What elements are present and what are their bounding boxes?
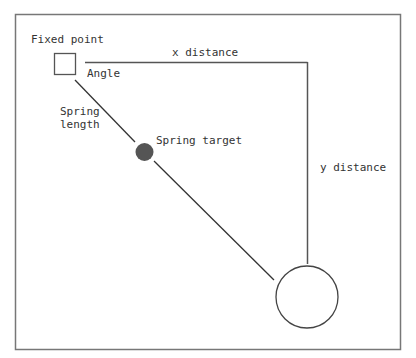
y-distance-label: y distance xyxy=(320,161,386,174)
spring-diagram: Fixed point x distance Angle Spring leng… xyxy=(0,0,416,358)
fixed-point-square xyxy=(55,54,76,75)
spring-to-bob-line xyxy=(154,161,274,280)
angle-label: Angle xyxy=(87,67,120,80)
spring-target-label: Spring target xyxy=(156,134,242,147)
x-distance-label: x distance xyxy=(172,46,238,59)
fixed-point-label: Fixed point xyxy=(31,33,104,46)
bob-circle xyxy=(276,266,338,328)
spring-length-label-2: length xyxy=(60,118,100,131)
spring-target-dot xyxy=(136,143,154,161)
spring-length-label-1: Spring xyxy=(60,105,100,118)
